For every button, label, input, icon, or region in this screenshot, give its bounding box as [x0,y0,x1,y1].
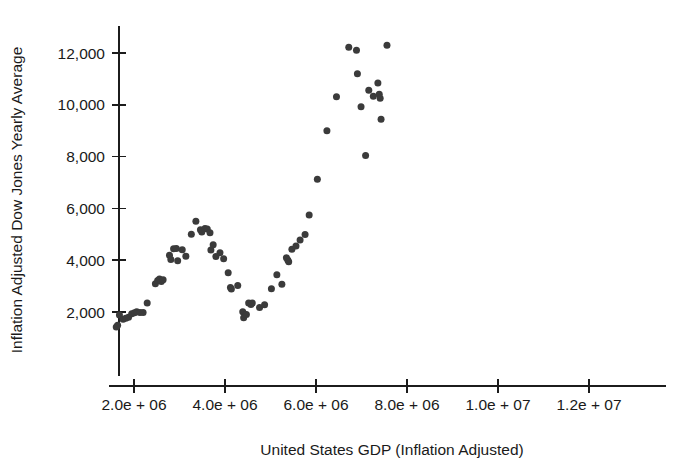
data-point [206,229,213,236]
data-point [345,44,352,51]
data-point [273,271,280,278]
data-point [292,242,299,249]
data-point [188,231,195,238]
data-point [383,42,390,49]
data-point [182,253,189,260]
x-tick-label: 4.0e + 06 [192,396,257,413]
data-point [353,47,360,54]
data-point [297,236,304,243]
y-tick-label: 10,000 [58,96,106,113]
data-point [377,95,384,102]
y-tick-label: 8,000 [66,148,105,165]
data-point [220,255,227,262]
x-axis-tick-labels: 2.0e + 064.0e + 066.0e + 068.0e + 061.0e… [101,396,621,413]
data-point [174,257,181,264]
data-point [234,282,241,289]
data-point [160,276,167,283]
data-point [374,80,381,87]
plot-canvas: 2,0004,0006,0008,00010,00012,000 2.0e + … [0,0,676,467]
data-point [140,309,147,316]
data-point [323,127,330,134]
data-point [354,70,361,77]
data-point [278,281,285,288]
data-point [285,258,292,265]
scatter-chart: 2,0004,0006,0008,00010,00012,000 2.0e + … [0,0,676,467]
data-point [243,311,250,318]
data-point [378,116,385,123]
data-point [167,256,174,263]
y-tick-label: 12,000 [58,45,106,62]
data-point [261,301,268,308]
data-point [268,285,275,292]
data-point [144,299,151,306]
y-tick-label: 4,000 [66,252,105,269]
data-point [114,322,121,329]
y-axis-title: Inflation Adjusted Dow Jones Yearly Aver… [8,47,25,353]
data-point [314,176,321,183]
y-axis-tick-labels: 2,0004,0006,0008,00010,00012,000 [58,45,106,321]
data-point [179,246,186,253]
data-point [228,285,235,292]
data-point [362,152,369,159]
x-tick-label: 1.0e + 07 [465,396,530,413]
x-tick-label: 8.0e + 06 [374,396,439,413]
y-tick-label: 2,000 [66,304,105,321]
data-point [216,249,223,256]
data-point [302,231,309,238]
data-point [249,299,256,306]
data-point [365,87,372,94]
y-tick-label: 6,000 [66,200,105,217]
x-tick-label: 6.0e + 06 [283,396,348,413]
x-tick-label: 2.0e + 06 [101,396,166,413]
data-point [225,269,232,276]
data-point [358,103,365,110]
data-point [210,241,217,248]
x-axis-title: United States GDP (Inflation Adjusted) [260,441,523,458]
data-point [173,245,180,252]
data-point [306,211,313,218]
x-tick-label: 1.2e + 07 [556,396,621,413]
data-points [113,42,391,331]
data-point [192,218,199,225]
data-point [333,93,340,100]
